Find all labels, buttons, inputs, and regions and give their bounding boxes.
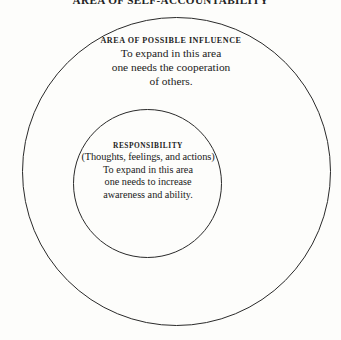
- outer-zone-line-1: To expand in this area: [55, 47, 287, 61]
- self-accountability-diagram: AREA OF SELF-ACCOUNTABILITY AREA OF POSS…: [0, 0, 341, 340]
- inner-zone-line-2: one needs to increase: [58, 176, 238, 188]
- inner-zone-text-block: RESPONSIBILITY (Thoughts, feelings, and …: [58, 141, 238, 201]
- outer-zone-line-3: of others.: [55, 75, 287, 89]
- outer-zone-line-2: one needs the cooperation: [55, 61, 287, 75]
- inner-zone-line-1: To expand in this area: [58, 164, 238, 176]
- outer-zone-text-block: AREA OF POSSIBLE INFLUENCE To expand in …: [55, 36, 287, 89]
- inner-zone-line-3: awareness and ability.: [58, 189, 238, 201]
- page-title: AREA OF SELF-ACCOUNTABILITY: [0, 0, 341, 6]
- outer-zone-heading: AREA OF POSSIBLE INFLUENCE: [55, 36, 287, 46]
- inner-zone-subtitle: (Thoughts, feelings, and actions): [58, 151, 238, 164]
- inner-zone-heading: RESPONSIBILITY: [58, 141, 238, 150]
